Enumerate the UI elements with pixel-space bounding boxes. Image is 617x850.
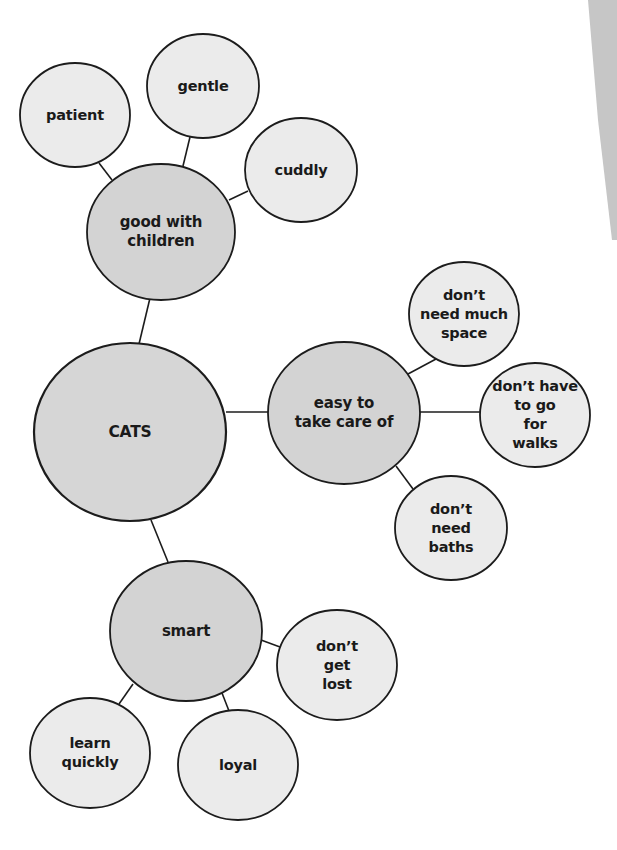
label-cuddly: cuddly [245, 118, 357, 222]
bubble-map-diagram: CATSgood with childrenpatientgentlecuddl… [0, 0, 617, 850]
connector-gentle-good-with-children [183, 137, 190, 166]
label-easy-to-take-care-of: easy to take care of [268, 342, 420, 484]
label-dont-have-to-go-for-walks: don’t have to go for walks [480, 363, 590, 467]
label-cats: CATS [34, 343, 226, 521]
label-gentle: gentle [147, 34, 259, 138]
label-dont-get-lost: don’t get lost [277, 610, 397, 720]
label-loyal: loyal [178, 710, 298, 820]
label-dont-need-much-space: don’t need much space [409, 262, 519, 366]
label-dont-need-baths: don’t need baths [395, 476, 507, 580]
label-patient: patient [20, 63, 130, 167]
connector-cats-smart [151, 520, 168, 562]
connector-good-with-children-cats [139, 298, 150, 344]
label-smart: smart [110, 561, 262, 701]
label-learn-quickly: learn quickly [30, 698, 150, 808]
page-edge-shadow [588, 0, 617, 240]
label-good-with-children: good with children [87, 164, 235, 300]
